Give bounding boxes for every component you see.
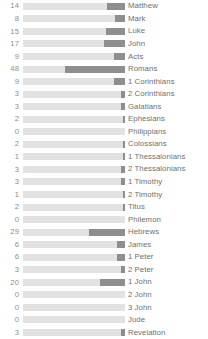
bar-row: 2Colossians bbox=[0, 138, 208, 151]
bar-track-wrapper bbox=[23, 301, 125, 314]
bar-category-label: Mark bbox=[128, 15, 208, 23]
bar-value-label: 6 bbox=[0, 253, 19, 261]
bar-value-label: 17 bbox=[0, 40, 19, 48]
bar-fill bbox=[121, 329, 125, 336]
bar-fill bbox=[123, 191, 125, 198]
bar-fill bbox=[121, 266, 125, 273]
bar-track-wrapper bbox=[23, 238, 125, 251]
bar-value-label: 15 bbox=[0, 28, 19, 36]
bar-row: 6James bbox=[0, 238, 208, 251]
bar-fill bbox=[107, 3, 125, 10]
bar-track bbox=[23, 316, 125, 323]
bar-category-label: 3 John bbox=[128, 304, 208, 312]
bar-value-label: 3 bbox=[0, 266, 19, 274]
bar-track bbox=[23, 254, 125, 261]
bar-track-wrapper bbox=[23, 263, 125, 276]
bar-row: 2Ephesians bbox=[0, 113, 208, 126]
bar-track bbox=[23, 28, 125, 35]
bar-fill bbox=[121, 178, 125, 185]
bar-value-label: 3 bbox=[0, 90, 19, 98]
bar-track bbox=[23, 153, 125, 160]
bar-value-label: 48 bbox=[0, 65, 19, 73]
bar-value-label: 0 bbox=[0, 316, 19, 324]
bar-row: 201 John bbox=[0, 276, 208, 289]
bar-row: 0Philemon bbox=[0, 213, 208, 226]
bar-track bbox=[23, 3, 125, 10]
bar-track bbox=[23, 116, 125, 123]
bar-value-label: 0 bbox=[0, 304, 19, 312]
bar-category-label: Luke bbox=[128, 27, 208, 35]
bar-track-wrapper bbox=[23, 326, 125, 339]
bar-fill bbox=[106, 28, 125, 35]
bar-category-label: Colossians bbox=[128, 140, 208, 148]
bar-fill bbox=[117, 254, 125, 261]
bar-row: 31 Timothy bbox=[0, 176, 208, 189]
bar-track bbox=[23, 279, 125, 286]
bar-fill bbox=[123, 204, 126, 211]
bar-category-label: Matthew bbox=[128, 2, 208, 10]
bar-value-label: 6 bbox=[0, 241, 19, 249]
bar-value-label: 8 bbox=[0, 15, 19, 23]
bar-track-wrapper bbox=[23, 188, 125, 201]
bar-track bbox=[23, 191, 125, 198]
bar-row: 32 Peter bbox=[0, 263, 208, 276]
bar-track-wrapper bbox=[23, 50, 125, 63]
bar-value-label: 3 bbox=[0, 329, 19, 337]
bar-track bbox=[23, 91, 125, 98]
bar-track-wrapper bbox=[23, 100, 125, 113]
bar-track bbox=[23, 241, 125, 248]
bar-category-label: 1 Peter bbox=[128, 253, 208, 261]
bar-category-label: 2 Timothy bbox=[128, 191, 208, 199]
bar-track bbox=[23, 128, 125, 135]
bar-fill bbox=[100, 279, 125, 286]
bar-track-wrapper bbox=[23, 138, 125, 151]
bar-category-label: 1 Thessalonians bbox=[128, 153, 208, 161]
bar-category-label: 2 Thessalonians bbox=[128, 165, 208, 173]
bar-value-label: 3 bbox=[0, 178, 19, 186]
bar-track bbox=[23, 304, 125, 311]
bar-fill bbox=[123, 141, 126, 148]
bar-fill bbox=[114, 78, 125, 85]
bar-row: 0Jude bbox=[0, 314, 208, 327]
bar-category-label: Acts bbox=[128, 53, 208, 61]
bar-track-wrapper bbox=[23, 176, 125, 189]
bar-row: 29Hebrews bbox=[0, 226, 208, 239]
bar-fill bbox=[115, 15, 125, 22]
bar-row: 9Acts bbox=[0, 50, 208, 63]
bar-track-wrapper bbox=[23, 0, 125, 13]
bar-track bbox=[23, 15, 125, 22]
bar-track bbox=[23, 78, 125, 85]
bar-row: 3Revelation bbox=[0, 326, 208, 339]
bar-category-label: 1 John bbox=[128, 278, 208, 286]
bar-track-wrapper bbox=[23, 38, 125, 51]
bar-row: 2Titus bbox=[0, 201, 208, 214]
bar-track bbox=[23, 216, 125, 223]
bar-row: 11 Thessalonians bbox=[0, 151, 208, 164]
bar-track bbox=[23, 178, 125, 185]
bar-value-label: 0 bbox=[0, 291, 19, 299]
bar-value-label: 1 bbox=[0, 153, 19, 161]
bar-track-wrapper bbox=[23, 201, 125, 214]
bar-row: 15Luke bbox=[0, 25, 208, 38]
bar-category-label: Titus bbox=[128, 203, 208, 211]
bar-track bbox=[23, 266, 125, 273]
bar-value-label: 1 bbox=[0, 191, 19, 199]
bar-track-wrapper bbox=[23, 289, 125, 302]
horizontal-bar-chart: 14Matthew8Mark15Luke17John9Acts48Romans9… bbox=[0, 0, 208, 339]
bar-row: 32 Thessalonians bbox=[0, 163, 208, 176]
bar-track-wrapper bbox=[23, 314, 125, 327]
bar-fill bbox=[89, 229, 125, 236]
bar-track-wrapper bbox=[23, 251, 125, 264]
bar-track bbox=[23, 229, 125, 236]
bar-track-wrapper bbox=[23, 163, 125, 176]
bar-value-label: 0 bbox=[0, 128, 19, 136]
bar-row: 12 Timothy bbox=[0, 188, 208, 201]
bar-track bbox=[23, 329, 125, 336]
bar-category-label: Galatians bbox=[128, 103, 208, 111]
bar-track bbox=[23, 141, 125, 148]
bar-track-wrapper bbox=[23, 13, 125, 26]
bar-track-wrapper bbox=[23, 25, 125, 38]
bar-row: 48Romans bbox=[0, 63, 208, 76]
bar-row: 02 John bbox=[0, 289, 208, 302]
bar-category-label: Revelation bbox=[128, 329, 208, 337]
